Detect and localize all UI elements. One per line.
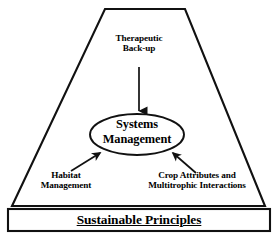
label-systems-line2: Management: [91, 132, 183, 147]
label-crop-attributes: Crop Attributes and Multitrophic Interac…: [129, 170, 265, 191]
label-systems-line1: Systems: [91, 117, 183, 132]
label-systems-management: Systems Management: [91, 117, 183, 147]
label-habitat-line1: Habitat: [17, 170, 115, 180]
label-habitat-line2: Management: [17, 180, 115, 190]
label-crop-line1: Crop Attributes and: [129, 170, 265, 180]
label-therapeutic-line2: Back-up: [89, 43, 189, 53]
label-therapeutic-backup: Therapeutic Back-up: [89, 33, 189, 54]
systems-management-diagram: Therapeutic Back-up Systems Management H…: [0, 0, 278, 234]
label-habitat-management: Habitat Management: [17, 170, 115, 191]
label-crop-line2: Multitrophic Interactions: [129, 180, 265, 190]
label-therapeutic-line1: Therapeutic: [89, 33, 189, 43]
label-sustainable-principles: Sustainable Principles: [8, 212, 270, 227]
